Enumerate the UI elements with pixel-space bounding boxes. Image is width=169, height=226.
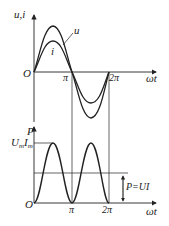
average-power-label: P=UI bbox=[125, 181, 150, 192]
curve-label-u: u bbox=[74, 24, 80, 36]
top-y-axis-label: u,i bbox=[14, 8, 25, 20]
bottom-tick-pi: π bbox=[69, 204, 75, 215]
top-x-axis-label: ωt bbox=[146, 72, 158, 84]
top-tick-pi: π bbox=[63, 72, 69, 83]
u-leader-line bbox=[63, 33, 73, 45]
curve-label-i: i bbox=[51, 45, 54, 57]
power-waveform-diagram: u,i u i O π 2π ωt P UmIm P=UI O π 2π ωt bbox=[0, 0, 169, 226]
bottom-x-axis-label: ωt bbox=[146, 205, 158, 217]
bottom-origin-label: O bbox=[25, 198, 33, 210]
top-plot: u,i u i O π 2π ωt bbox=[14, 8, 158, 122]
top-origin-label: O bbox=[23, 67, 31, 79]
top-tick-2pi: 2π bbox=[109, 72, 120, 83]
bottom-plot: P UmIm P=UI O π 2π ωt bbox=[11, 125, 158, 217]
bottom-tick-2pi: 2π bbox=[102, 204, 113, 215]
peak-label: UmIm bbox=[11, 136, 33, 150]
